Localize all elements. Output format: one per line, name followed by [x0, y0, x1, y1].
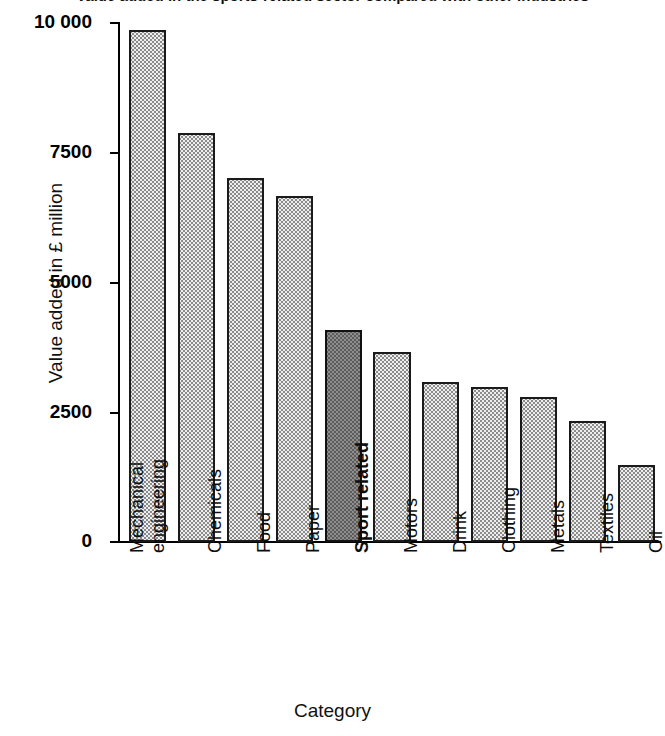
- y-tick-mark-0: [110, 541, 119, 543]
- x-label-mechanical-engineering: Mechanical engineering: [127, 403, 149, 553]
- y-axis-title: Value added in £ million: [45, 153, 67, 413]
- x-label-oil: Oil: [646, 403, 665, 553]
- x-label-clothing: Clothing: [499, 403, 521, 553]
- y-tick-mark-10000: [110, 22, 119, 24]
- x-label-line1: Drink: [450, 511, 470, 553]
- x-label-line1: Textiles: [597, 493, 617, 553]
- x-label-line1: Clothing: [499, 487, 519, 553]
- x-label-food: Food: [254, 403, 276, 553]
- y-tick-mark-7500: [110, 152, 119, 154]
- x-label-motors: Motors: [401, 403, 423, 553]
- y-tick-mark-5000: [110, 282, 119, 284]
- x-label-drink: Drink: [450, 403, 472, 553]
- x-label-paper: Paper: [303, 403, 325, 553]
- x-label-line1: Chemicals: [205, 469, 225, 553]
- x-axis-title: Category: [0, 700, 665, 722]
- y-tick-label-0: 0: [81, 531, 92, 550]
- x-label-line1: Metals: [548, 500, 568, 553]
- x-label-sport-related: Sport related: [352, 403, 374, 553]
- x-label-line1: Sport related: [352, 442, 372, 553]
- x-label-line1: Oil: [646, 531, 665, 553]
- x-label-line1: Food: [254, 512, 274, 553]
- x-label-metals: Metals: [548, 403, 570, 553]
- y-tick-mark-2500: [110, 412, 119, 414]
- x-label-line1: Paper: [303, 505, 323, 553]
- x-label-line1: Mechanical: [127, 462, 147, 553]
- bar-chart-plot: 10 000 7500 5000 2500 0 Value added in £…: [0, 0, 665, 736]
- y-tick-label-10000: 10 000: [34, 12, 92, 31]
- x-label-chemicals: Chemicals: [205, 403, 227, 553]
- x-label-line2: engineering: [148, 459, 168, 553]
- x-label-textiles: Textiles: [597, 403, 619, 553]
- x-label-line1: Motors: [401, 498, 421, 553]
